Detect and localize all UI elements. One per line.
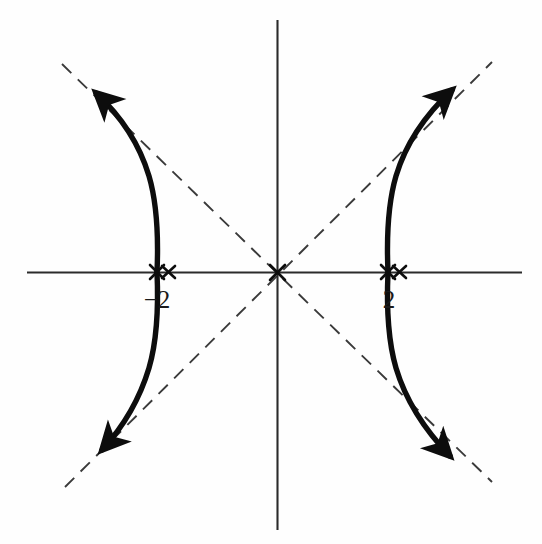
hyperbola-diagram: −2 2: [0, 0, 542, 544]
x-tick-label-two: 2: [383, 286, 396, 313]
x-tick-label-negative-two: −2: [144, 286, 171, 313]
left-branch-upper: [96, 93, 158, 272]
right-branch-lower: [387, 272, 450, 456]
graph-canvas: −2 2: [0, 0, 542, 544]
right-branch-upper: [387, 90, 452, 272]
